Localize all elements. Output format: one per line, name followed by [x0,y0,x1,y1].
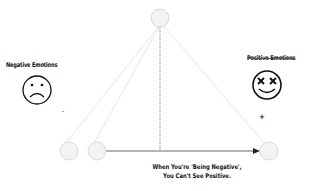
caption-line-1: When You're 'Being Negative', [127,163,266,172]
diagonal-line-right [163,25,264,143]
top-node [151,9,169,27]
bottom-left-node-1 [60,142,78,160]
negative-emotions-label: Negative Emotions [6,61,57,69]
positive-emotions-label: Positive Emotions [247,54,295,62]
caption: When You're 'Being Negative', You Can't … [127,163,266,181]
xx-smile-face-icon [253,71,281,99]
sad-face-icon [23,76,51,104]
bottom-right-node [260,142,278,160]
caption-line-2: You Can't See Positive. [127,172,266,181]
diagonal-line-left-inner [94,25,160,143]
diagonal-line-left-outer [66,25,160,143]
arrow-head-icon [253,148,260,154]
positive-sign: + [259,113,265,121]
bottom-left-node-2 [88,142,106,160]
negative-sign: - [62,107,64,114]
